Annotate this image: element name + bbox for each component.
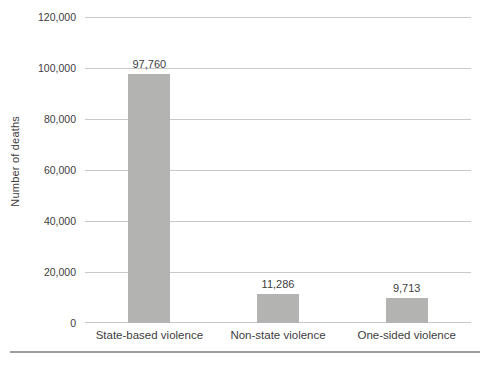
value-label-state-based-violence: 97,760	[107, 58, 191, 70]
y-tick-label-0: 0	[0, 316, 76, 330]
y-axis-tick-labels: 020,00040,00060,00080,000100,000120,000	[0, 17, 76, 323]
bar-non-state-violence	[257, 294, 299, 323]
bar-chart: Number of deaths 020,00040,00060,00080,0…	[0, 0, 487, 367]
x-category-label-non-state-violence: Non-state violence	[214, 329, 343, 341]
y-tick-label-120000: 120,000	[0, 10, 76, 24]
value-label-one-sided-violence: 9,713	[365, 282, 449, 294]
y-tick-label-20000: 20,000	[0, 265, 76, 279]
y-tick-label-80000: 80,000	[0, 112, 76, 126]
y-tick-label-40000: 40,000	[0, 214, 76, 228]
bar-one-sided-violence	[386, 298, 428, 323]
bottom-separator-line	[10, 351, 480, 353]
bar-state-based-violence	[128, 74, 170, 323]
gridline-120000	[85, 17, 471, 18]
x-category-label-state-based-violence: State-based violence	[85, 329, 214, 341]
x-axis-category-labels: State-based violenceNon-state violenceOn…	[85, 329, 471, 341]
y-tick-label-60000: 60,000	[0, 163, 76, 177]
value-label-non-state-violence: 11,286	[236, 278, 320, 290]
plot-area: 97,76011,2869,713	[85, 17, 471, 323]
y-tick-label-100000: 100,000	[0, 61, 76, 75]
x-category-label-one-sided-violence: One-sided violence	[342, 329, 471, 341]
